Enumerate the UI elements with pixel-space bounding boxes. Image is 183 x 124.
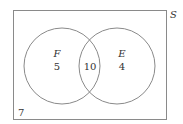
intersection-count: 10 <box>84 61 97 72</box>
venn-diagram: S F 5 E 4 10 7 <box>0 0 183 124</box>
universe-label: S <box>170 9 177 20</box>
set-e-label: E <box>117 48 126 59</box>
set-f-label: F <box>53 48 62 59</box>
set-e-only-count: 4 <box>119 61 125 72</box>
set-f-only-count: 5 <box>54 61 60 72</box>
outside-count: 7 <box>18 107 24 118</box>
